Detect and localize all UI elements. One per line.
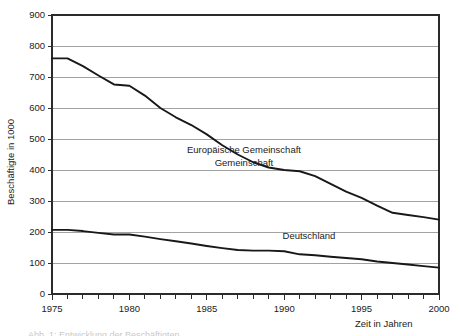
series-annotations-group: Europäische GemeinschaftGemeinschaftDeut… — [187, 144, 335, 241]
y-axis-tick-label: 800 — [29, 40, 45, 51]
y-axis-tick-label: 200 — [29, 226, 45, 237]
annotation-eg-label-line1: Europäische Gemeinschaft — [187, 144, 301, 155]
y-axis-tick-labels-group: 0100200300400500600700800900 — [29, 9, 45, 299]
x-axis-tick-label: 1995 — [351, 303, 372, 314]
x-axis-tick-label: 1990 — [274, 303, 295, 314]
y-axis-title: Beschäftigte in 1000 — [5, 119, 16, 205]
x-axis-tick-labels-group: 197519801985199019952000 — [41, 303, 449, 314]
x-axis-title: Zeit in Jahren — [355, 318, 413, 329]
gridlines-group — [52, 15, 439, 263]
y-axis-ticks-group — [48, 15, 52, 294]
series-line-deutschland — [52, 230, 439, 268]
y-axis-tick-label: 700 — [29, 71, 45, 82]
y-axis-tick-label: 600 — [29, 102, 45, 113]
y-axis-tick-label: 100 — [29, 257, 45, 268]
chart-figure: 0100200300400500600700800900 19751980198… — [0, 0, 460, 336]
annotation-eg-label-line2: Gemeinschaft — [215, 157, 274, 168]
y-axis-tick-label: 300 — [29, 195, 45, 206]
y-axis-tick-label: 500 — [29, 133, 45, 144]
y-axis-tick-label: 0 — [40, 288, 45, 299]
y-axis-tick-label: 900 — [29, 9, 45, 20]
clipped-footer-text: Abb. 1: Entwicklung der Beschäftigten — [28, 330, 278, 336]
x-axis-tick-label: 1980 — [119, 303, 140, 314]
annotation-de-label: Deutschland — [283, 230, 336, 241]
x-axis-minor-ticks-group — [52, 294, 439, 300]
x-axis-tick-label: 2000 — [428, 303, 449, 314]
x-axis-tick-label: 1985 — [196, 303, 217, 314]
line-chart: 0100200300400500600700800900 19751980198… — [0, 0, 460, 336]
x-axis-tick-label: 1975 — [41, 303, 62, 314]
y-axis-tick-label: 400 — [29, 164, 45, 175]
